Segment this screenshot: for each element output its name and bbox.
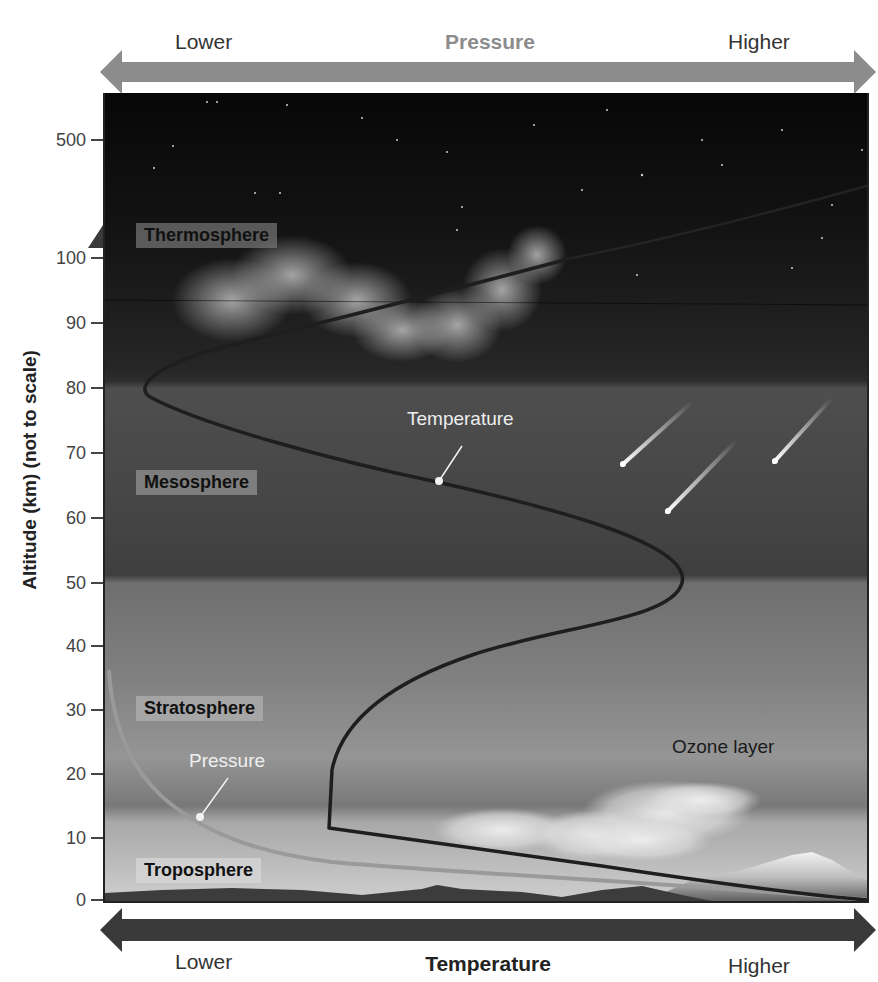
temperature-axis-title: Temperature (425, 952, 551, 976)
y-tick-label: 0 (26, 890, 86, 911)
pressure-double-arrow-icon (100, 50, 878, 94)
atmosphere-plot (103, 93, 869, 903)
ozone-layer-label: Ozone layer (672, 736, 774, 758)
y-tick-mark (91, 322, 103, 324)
y-tick-label: 60 (26, 508, 86, 529)
y-tick-mark (91, 899, 103, 901)
temperature-double-arrow-icon (100, 908, 878, 952)
sky-background (105, 93, 869, 903)
y-tick-label: 500 (26, 130, 86, 151)
y-tick-label: 30 (26, 700, 86, 721)
y-tick-label: 90 (26, 313, 86, 334)
y-tick-label: 70 (26, 443, 86, 464)
layer-label-stratosphere: Stratosphere (136, 696, 263, 721)
y-tick-label: 40 (26, 636, 86, 657)
y-tick-mark (91, 582, 103, 584)
y-tick-mark (91, 773, 103, 775)
y-tick-label: 20 (26, 764, 86, 785)
temperature-pointer-dot (435, 477, 443, 485)
y-tick-mark (91, 452, 103, 454)
y-tick-mark (91, 257, 103, 259)
y-tick-label: 10 (26, 828, 86, 849)
y-tick-mark (91, 517, 103, 519)
layer-label-mesosphere: Mesosphere (136, 470, 257, 495)
temperature-lower-label: Lower (175, 950, 232, 974)
y-tick-label: 80 (26, 378, 86, 399)
y-tick-mark (91, 645, 103, 647)
y-tick-mark (91, 387, 103, 389)
y-tick-label: 50 (26, 573, 86, 594)
y-tick-mark (91, 837, 103, 839)
temperature-curve-label: Temperature (407, 408, 514, 430)
layer-label-troposphere: Troposphere (136, 858, 261, 883)
y-tick-mark (91, 139, 103, 141)
pressure-curve-label: Pressure (189, 750, 265, 772)
layer-label-thermosphere: Thermosphere (136, 223, 277, 248)
temperature-higher-label: Higher (728, 954, 790, 978)
pressure-pointer-dot (196, 813, 204, 821)
y-tick-label: 100 (26, 248, 86, 269)
atmosphere-diagram (105, 93, 869, 903)
y-tick-mark (91, 709, 103, 711)
